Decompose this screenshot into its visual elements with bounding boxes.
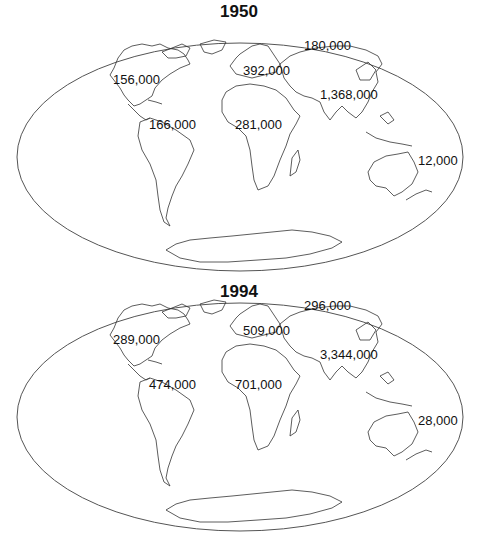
map-panel-1950: 1950	[0, 0, 478, 276]
label-north-america: 289,000	[113, 332, 160, 347]
label-africa: 701,000	[235, 377, 282, 392]
label-latin-america: 166,000	[149, 117, 196, 132]
label-former-ussr: 296,000	[304, 298, 351, 313]
world-map-1994	[0, 260, 478, 546]
label-oceania: 28,000	[418, 413, 458, 428]
label-oceania: 12,000	[418, 153, 458, 168]
globe-outline	[17, 303, 463, 531]
label-africa: 281,000	[235, 117, 282, 132]
globe-outline	[17, 43, 463, 271]
label-latin-america: 474,000	[149, 377, 196, 392]
map-panel-1994: 1994 289,000 474,000 509,000 701,000 296…	[0, 260, 478, 546]
label-europe: 392,000	[243, 63, 290, 78]
label-north-america: 156,000	[113, 72, 160, 87]
label-europe: 509,000	[243, 323, 290, 338]
world-map-1950	[0, 0, 478, 276]
label-asia: 1,368,000	[320, 87, 378, 102]
label-former-ussr: 180,000	[304, 38, 351, 53]
label-asia: 3,344,000	[320, 347, 378, 362]
